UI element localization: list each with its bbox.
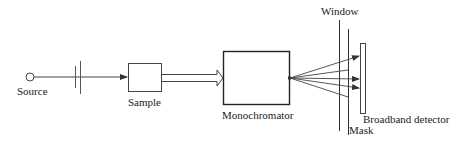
optical-setup-diagram: Source Sample Monochromator Window Mask [0, 0, 465, 144]
broadband-detector: Broadband detector [361, 44, 450, 126]
mask-label: Mask [349, 124, 374, 136]
sample-box [129, 64, 162, 92]
detector-bar [361, 44, 366, 114]
detector-label: Broadband detector [363, 113, 450, 125]
monochromator-label: Monochromator [222, 109, 294, 121]
window: Window [321, 5, 358, 131]
monochromator: Monochromator [222, 52, 294, 122]
sample-label: Sample [128, 96, 161, 108]
source-label: Source [17, 85, 48, 97]
source-circle-icon [26, 73, 34, 81]
sample: Sample [128, 64, 162, 109]
monochromator-box [224, 52, 290, 105]
exit-slit [288, 77, 291, 80]
hollow-arrow-icon [162, 70, 223, 86]
window-label: Window [321, 5, 358, 17]
